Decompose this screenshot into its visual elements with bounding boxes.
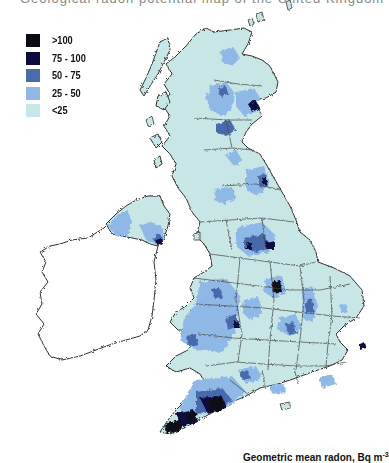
caption-superscript: -3 [382, 451, 388, 458]
legend-label: >100 [52, 35, 73, 46]
inner-hebrides [150, 134, 162, 168]
legend-label: 25 - 50 [52, 88, 81, 99]
legend-item-gt100: >100 [26, 32, 89, 50]
legend-swatch [26, 52, 40, 65]
legend-swatch [26, 87, 40, 100]
caption-text: Geometric mean radon, Bq m [243, 452, 382, 463]
map-caption: Geometric mean radon, Bq m-3 [243, 451, 389, 463]
legend-item-75-100: 75 - 100 [26, 50, 89, 68]
legend-label: 75 - 100 [52, 53, 86, 64]
legend-item-50-75: 50 - 75 [26, 67, 89, 85]
legend-item-25-50: 25 - 50 [26, 85, 89, 103]
legend-swatch [26, 34, 40, 47]
legend-label: <25 [52, 105, 68, 116]
legend-swatch [26, 69, 40, 82]
legend: >100 75 - 100 50 - 75 25 - 50 <25 [26, 32, 89, 120]
legend-swatch [26, 104, 40, 117]
legend-label: 50 - 75 [52, 70, 81, 81]
legend-item-lt25: <25 [26, 102, 89, 120]
